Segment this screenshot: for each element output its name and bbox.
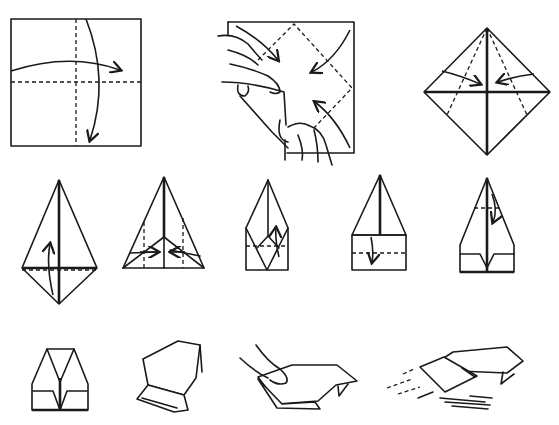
step-2-collapse-with-hands	[218, 22, 354, 165]
step-6-pocket-fold	[246, 180, 288, 270]
step-1-square-fold	[11, 19, 141, 146]
step-7-fold-down	[352, 175, 406, 270]
step-10-glider-angled	[137, 341, 202, 412]
step-8-nose-fold	[460, 178, 514, 272]
step-3-diamond	[424, 28, 550, 155]
step-12-glider-flight	[387, 347, 523, 409]
step-5-triangle	[123, 177, 204, 268]
step-4-kite	[22, 180, 97, 304]
step-11-hand-launch	[240, 345, 357, 409]
step-9-folded-body	[32, 349, 88, 410]
origami-diagram	[0, 0, 559, 425]
